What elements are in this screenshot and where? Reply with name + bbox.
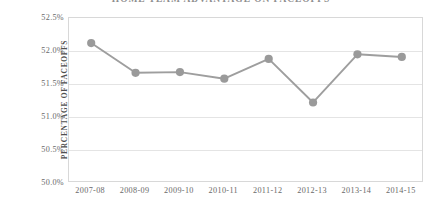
x-tick-label: 2014-15 — [386, 186, 416, 195]
y-tick-label: 51.0% — [2, 112, 64, 121]
data-point-marker: 2010-11: 51.58% — [220, 75, 228, 83]
x-tick-label: 2010-11 — [209, 186, 238, 195]
x-tick-label: 2007-08 — [75, 186, 105, 195]
x-axis-tick-labels: 2007-082008-092009-102010-112011-122012-… — [68, 186, 423, 204]
data-point-marker: 2007-08: 52.12% — [87, 39, 95, 47]
data-point-marker: 2009-10: 51.68% — [176, 68, 184, 76]
chart-title: HOME TEAM ADVANTAGE ON FACEOFFS — [0, 0, 442, 2]
data-point-marker: 2008-09: 51.67% — [131, 69, 139, 77]
data-point-marker: 2011-12: 51.88% — [265, 55, 273, 63]
chart-container: HOME TEAM ADVANTAGE ON FACEOFFS PERCENTA… — [0, 0, 442, 215]
x-tick-label: 2009-10 — [164, 186, 194, 195]
plot-area: 2007-08: 52.12%2008-09: 51.67%2009-10: 5… — [68, 17, 423, 182]
data-point-marker: 2014-15: 51.91% — [398, 53, 406, 61]
x-tick-label: 2012-13 — [297, 186, 327, 195]
data-series: 2007-08: 52.12%2008-09: 51.67%2009-10: 5… — [69, 18, 424, 183]
y-tick-label: 52.0% — [2, 46, 64, 55]
y-axis-tick-labels: 52.5%52.0%51.5%51.0%50.5%50.0% — [0, 17, 64, 182]
x-tick-label: 2008-09 — [120, 186, 150, 195]
y-tick-label: 51.5% — [2, 79, 64, 88]
data-point-marker: 2013-14: 51.95% — [353, 50, 361, 58]
y-tick-label: 52.5% — [2, 13, 64, 22]
y-tick-label: 50.0% — [2, 178, 64, 187]
y-tick-label: 50.5% — [2, 145, 64, 154]
x-tick-label: 2013-14 — [342, 186, 372, 195]
x-tick-label: 2011-12 — [253, 186, 282, 195]
data-point-marker: 2012-13: 51.22% — [309, 98, 317, 106]
